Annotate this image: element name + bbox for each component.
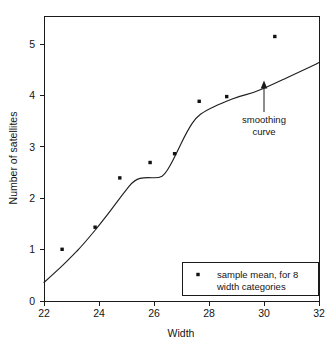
x-axis-title: Width	[168, 327, 195, 339]
x-tick-label-24: 24	[93, 307, 105, 319]
y-tick-label-1: 1	[29, 243, 35, 255]
smoothing-curve-line	[44, 63, 319, 283]
arrow-up-icon	[261, 81, 268, 89]
data-point	[198, 100, 201, 103]
legend-marker-icon	[196, 273, 199, 276]
chart-figure: 0 1 2 3 4 5 22 24 26 28 30 32 Width Numb…	[0, 0, 336, 344]
annotation-text-line1: smoothing	[242, 114, 286, 125]
satellites-vs-width-scatter-chart: 0 1 2 3 4 5 22 24 26 28 30 32 Width Numb…	[0, 0, 336, 344]
x-tick-label-22: 22	[38, 307, 50, 319]
x-tick-label-30: 30	[258, 307, 270, 319]
x-tick-label-32: 32	[313, 307, 325, 319]
y-axis-tick-labels: 0 1 2 3 4 5	[29, 38, 35, 307]
sample-mean-markers	[60, 35, 276, 251]
x-tick-label-26: 26	[148, 307, 160, 319]
data-point	[118, 176, 121, 179]
y-tick-label-5: 5	[29, 38, 35, 50]
annotation-text-line2: curve	[252, 126, 275, 137]
y-tick-label-0: 0	[29, 295, 35, 307]
data-point	[60, 248, 63, 251]
legend-label-line2: width categories	[216, 281, 286, 292]
y-axis-title: Number of satellites	[7, 112, 19, 205]
data-point	[148, 161, 151, 164]
y-tick-label-4: 4	[29, 89, 35, 101]
y-tick-label-2: 2	[29, 192, 35, 204]
y-axis-ticks	[40, 44, 45, 301]
data-point	[273, 35, 276, 38]
data-point	[225, 95, 228, 98]
smoothing-curve-annotation: smoothing curve	[242, 81, 286, 137]
data-point	[173, 152, 176, 155]
chart-legend: sample mean, for 8 width categories	[183, 263, 319, 296]
y-tick-label-3: 3	[29, 141, 35, 153]
data-point	[93, 226, 96, 229]
x-axis-tick-labels: 22 24 26 28 30 32	[38, 307, 325, 319]
x-tick-label-28: 28	[203, 307, 215, 319]
x-axis-ticks	[44, 301, 319, 306]
legend-label-line1: sample mean, for 8	[217, 269, 298, 280]
plot-axes	[44, 16, 319, 301]
